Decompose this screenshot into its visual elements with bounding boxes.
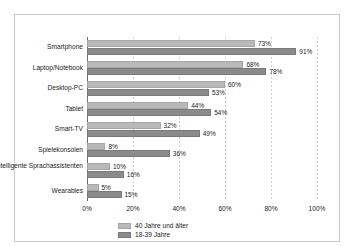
category-label: Desktop-PC: [0, 84, 83, 92]
x-axis-tick-label: 80%: [264, 205, 277, 212]
bar-older: [87, 40, 255, 47]
bar-value-label: 32%: [164, 122, 177, 129]
bar-older: [87, 143, 105, 150]
bar-value-label: 53%: [212, 89, 225, 96]
bar-value-label: 91%: [299, 48, 312, 55]
bar-older: [87, 61, 243, 68]
bar-younger: [87, 48, 296, 55]
bar-older: [87, 81, 225, 88]
category-label: Intelligente Sprachassistenten: [0, 162, 83, 169]
x-axis-tick-label: 20%: [126, 205, 139, 212]
legend-swatch-younger: [118, 232, 131, 238]
bar-younger: [87, 191, 122, 198]
legend-label-older: 40 Jahre und älter: [135, 222, 188, 230]
bar-value-label: 8%: [108, 143, 117, 150]
bar-value-label: 54%: [214, 109, 227, 116]
category-label: Smartphone: [0, 43, 83, 51]
bar-value-label: 49%: [203, 130, 216, 137]
bar-value-label: 44%: [191, 102, 204, 109]
bar-group: Wearables5%15%: [87, 184, 317, 199]
category-label: Spielekonsolen: [0, 146, 83, 154]
x-axis-tick-label: 0%: [82, 205, 92, 212]
x-axis-tick-label: 60%: [218, 205, 231, 212]
bar-younger: [87, 150, 170, 157]
bar-older: [87, 184, 99, 191]
bar-group: Spielekonsolen8%36%: [87, 143, 317, 158]
bar-value-label: 10%: [113, 163, 126, 170]
category-label: Wearables: [0, 187, 83, 195]
legend-item-younger: 18-39 Jahre: [118, 231, 188, 239]
chart-figure: Smartphone73%91%Laptop/Notebook68%78%Des…: [0, 0, 357, 246]
bar-group: Tablet44%54%: [87, 102, 317, 117]
chart-frame: Smartphone73%91%Laptop/Notebook68%78%Des…: [14, 14, 340, 242]
bar-value-label: 16%: [127, 171, 140, 178]
legend-item-older: 40 Jahre und älter: [118, 222, 188, 230]
chart-legend: 40 Jahre und älter 18-39 Jahre: [118, 222, 188, 240]
x-axis-tick-label: 100%: [309, 205, 326, 212]
legend-swatch-older: [118, 223, 131, 229]
bar-value-label: 68%: [246, 61, 259, 68]
bar-group: Intelligente Sprachassistenten10%16%: [87, 163, 317, 178]
bar-older: [87, 163, 110, 170]
bar-value-label: 15%: [125, 191, 138, 198]
bar-older: [87, 102, 188, 109]
bar-younger: [87, 130, 200, 137]
bar-younger: [87, 109, 211, 116]
bar-younger: [87, 89, 209, 96]
category-label: Laptop/Notebook: [0, 64, 83, 72]
category-label: Tablet: [0, 105, 83, 113]
bar-younger: [87, 171, 124, 178]
bar-value-label: 78%: [269, 68, 282, 75]
legend-label-younger: 18-39 Jahre: [135, 231, 170, 239]
bar-value-label: 73%: [258, 40, 271, 47]
bar-value-label: 36%: [173, 150, 186, 157]
bar-older: [87, 122, 161, 129]
bar-younger: [87, 68, 266, 75]
plot-area: Smartphone73%91%Laptop/Notebook68%78%Des…: [87, 37, 317, 201]
bar-group: Desktop-PC60%53%: [87, 81, 317, 96]
bar-group: Laptop/Notebook68%78%: [87, 61, 317, 76]
x-axis-tick-label: 40%: [172, 205, 185, 212]
bar-value-label: 60%: [228, 81, 241, 88]
bar-group: Smart-TV32%49%: [87, 122, 317, 137]
category-label: Smart-TV: [0, 125, 83, 133]
gridline: [317, 37, 318, 201]
bar-value-label: 5%: [102, 184, 111, 191]
bar-group: Smartphone73%91%: [87, 40, 317, 55]
